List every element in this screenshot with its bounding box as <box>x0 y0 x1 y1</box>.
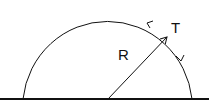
radius-arrow <box>108 37 167 99</box>
radius-label: R <box>118 47 129 62</box>
tangent-arrow-up-icon <box>147 21 153 28</box>
semicircle-arc <box>23 21 192 99</box>
diagram-canvas: R T <box>0 0 209 112</box>
diagram-svg <box>0 0 209 112</box>
tangent-label: T <box>171 20 180 35</box>
